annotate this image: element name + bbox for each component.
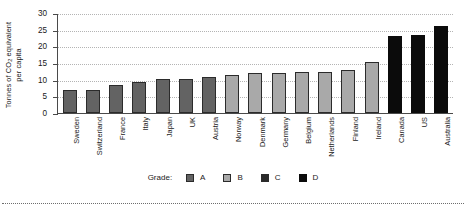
y-axis-tick-label: 5 xyxy=(21,93,47,101)
x-axis-category-label: Australia xyxy=(444,117,451,146)
bar-slot xyxy=(290,14,313,113)
x-axis-category-label: Germany xyxy=(282,117,289,147)
bar-slot xyxy=(81,14,104,113)
bar-slot xyxy=(244,14,267,113)
bar[interactable] xyxy=(365,62,379,113)
legend-label: A xyxy=(200,173,205,182)
x-axis-category-labels: SwedenSwitzerlandFranceItalyJapanUKAustr… xyxy=(58,117,453,165)
x-axis-category-label: Norway xyxy=(235,117,242,142)
x-axis-category-label: Sweden xyxy=(73,117,80,144)
bar-slot xyxy=(128,14,151,113)
y-axis-tick-label: 25 xyxy=(21,27,47,35)
category-label-slot: Germany xyxy=(267,117,290,165)
category-label-slot: Switzerland xyxy=(81,117,104,165)
x-axis-line xyxy=(57,113,453,114)
y-axis-tick-label: 10 xyxy=(21,77,47,85)
legend-item-a[interactable]: A xyxy=(186,173,205,182)
legend-item-d[interactable]: D xyxy=(299,173,319,182)
legend-swatch-icon xyxy=(223,174,231,182)
bar[interactable] xyxy=(388,36,402,113)
bar-slot xyxy=(407,14,430,113)
bar-slot xyxy=(174,14,197,113)
legend: Grade: ABCD xyxy=(0,173,466,182)
x-axis-category-label: France xyxy=(119,117,126,140)
x-axis-category-label: UK xyxy=(189,117,196,127)
bar[interactable] xyxy=(411,35,425,113)
x-axis-category-label: Netherlands xyxy=(328,117,335,157)
bar[interactable] xyxy=(434,26,448,113)
category-label-slot: Belgium xyxy=(290,117,313,165)
legend-label: C xyxy=(275,173,281,182)
category-label-slot: Ireland xyxy=(360,117,383,165)
category-label-slot: Canada xyxy=(383,117,406,165)
category-label-slot: Netherlands xyxy=(314,117,337,165)
x-axis-category-label: Switzerland xyxy=(96,117,103,155)
legend-item-list: ABCD xyxy=(186,173,318,182)
legend-swatch-icon xyxy=(186,174,194,182)
category-label-slot: Norway xyxy=(221,117,244,165)
bar-slot xyxy=(58,14,81,113)
legend-item-b[interactable]: B xyxy=(223,173,242,182)
legend-swatch-icon xyxy=(299,174,307,182)
bar[interactable] xyxy=(225,75,239,113)
bar-slot xyxy=(221,14,244,113)
category-label-slot: Australia xyxy=(430,117,453,165)
x-axis-category-label: Austria xyxy=(212,117,219,140)
legend-label: B xyxy=(237,173,242,182)
bar-slot xyxy=(383,14,406,113)
y-axis-tick-label: 30 xyxy=(21,10,47,18)
bar[interactable] xyxy=(179,79,193,113)
bar-chart: Tonnes of CO2 equivalent per capita 0510… xyxy=(0,0,466,214)
bar[interactable] xyxy=(109,85,123,113)
category-label-slot: France xyxy=(104,117,127,165)
y-axis-title-subscript: 2 xyxy=(8,59,14,62)
bar[interactable] xyxy=(202,77,216,113)
category-label-slot: Finland xyxy=(337,117,360,165)
y-axis-tick xyxy=(53,114,58,115)
x-axis-category-label: Finland xyxy=(352,117,359,141)
category-label-slot: Sweden xyxy=(58,117,81,165)
y-axis-title-line1b: equivalent xyxy=(4,22,13,59)
legend-title: Grade: xyxy=(148,173,172,182)
bar-slot xyxy=(314,14,337,113)
category-label-slot: Italy xyxy=(128,117,151,165)
legend-item-c[interactable]: C xyxy=(261,173,281,182)
bar-slot xyxy=(337,14,360,113)
y-axis-tick-label: 20 xyxy=(21,43,47,51)
x-axis-category-label: Belgium xyxy=(305,117,312,144)
bar-slot xyxy=(197,14,220,113)
y-axis-tick-label: 0 xyxy=(21,110,47,118)
legend-swatch-icon xyxy=(261,174,269,182)
y-axis-title-line1: Tonnes of CO xyxy=(4,62,13,108)
category-label-slot: Japan xyxy=(151,117,174,165)
x-axis-category-label: Denmark xyxy=(259,117,266,147)
bar[interactable] xyxy=(248,73,262,113)
bar[interactable] xyxy=(272,73,286,113)
category-label-slot: Denmark xyxy=(244,117,267,165)
x-axis-category-label: Canada xyxy=(398,117,405,143)
bar[interactable] xyxy=(318,72,332,113)
bar[interactable] xyxy=(132,82,146,113)
bar[interactable] xyxy=(156,79,170,113)
x-axis-category-label: Ireland xyxy=(375,117,382,140)
bottom-divider xyxy=(2,203,464,204)
x-axis-category-label: Italy xyxy=(142,117,149,131)
x-axis-category-label: Japan xyxy=(166,117,173,137)
bar-slot xyxy=(430,14,453,113)
bar[interactable] xyxy=(341,70,355,113)
category-label-slot: UK xyxy=(174,117,197,165)
category-label-slot: US xyxy=(407,117,430,165)
bar-series xyxy=(58,14,453,113)
x-axis-category-label: US xyxy=(421,117,428,127)
bar[interactable] xyxy=(295,72,309,113)
y-axis-tick-label: 15 xyxy=(21,60,47,68)
category-label-slot: Austria xyxy=(197,117,220,165)
bar-slot xyxy=(104,14,127,113)
bar[interactable] xyxy=(86,90,100,113)
plot-area: 051015202530 xyxy=(57,14,453,114)
bar-slot xyxy=(267,14,290,113)
bar-slot xyxy=(151,14,174,113)
legend-label: D xyxy=(313,173,319,182)
bar-slot xyxy=(360,14,383,113)
bar[interactable] xyxy=(63,90,77,113)
